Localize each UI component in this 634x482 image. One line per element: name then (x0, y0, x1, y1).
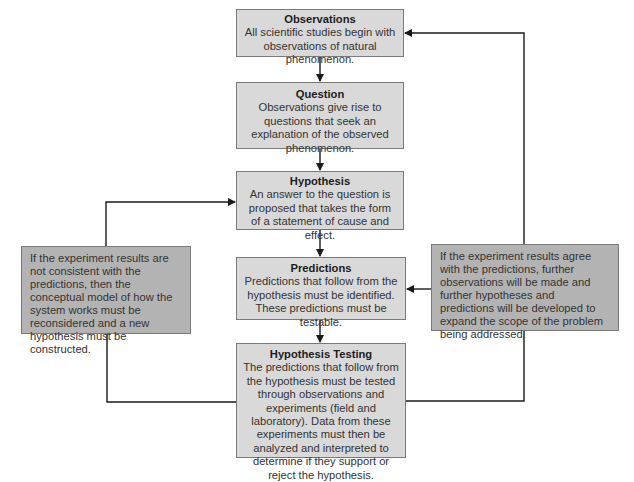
node-text: If the experiment results are not consis… (30, 252, 182, 356)
node-text: Observations give rise to questions that… (240, 101, 400, 155)
node-question: Question Observations give rise to quest… (236, 82, 404, 149)
node-observations: Observations All scientific studies begi… (236, 9, 404, 57)
node-title: Hypothesis Testing (240, 348, 402, 361)
node-text: If the experiment results agree with the… (440, 250, 610, 341)
node-predictions: Predictions Predictions that follow from… (236, 257, 406, 320)
node-title: Predictions (240, 262, 402, 275)
node-text: Predictions that follow from the hypothe… (240, 275, 402, 329)
node-title: Hypothesis (240, 175, 400, 188)
node-title: Observations (240, 13, 400, 26)
node-results-agree: If the experiment results agree with the… (431, 244, 619, 331)
arrow-agree-to-observations (405, 33, 524, 244)
node-title: Question (240, 88, 400, 101)
node-text: An answer to the question is proposed th… (240, 188, 400, 242)
node-hypothesis-testing: Hypothesis Testing The predictions that … (236, 343, 406, 458)
node-results-not-consistent: If the experiment results are not consis… (21, 246, 191, 334)
arrow-reject-to-hypothesis (106, 202, 235, 246)
node-hypothesis: Hypothesis An answer to the question is … (236, 171, 404, 230)
node-text: All scientific studies begin with observ… (240, 26, 400, 66)
node-text: The predictions that follow from the hyp… (240, 361, 402, 482)
line-testing-to-agree (406, 331, 524, 401)
